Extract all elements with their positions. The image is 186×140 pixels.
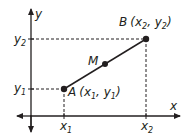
y2-label: y2 [13,32,26,48]
x1-label: x1 [59,119,72,135]
point-b [143,36,149,42]
y-axis-label: y [34,7,43,21]
y1-label: y1 [13,81,26,97]
point-m-label: M [88,54,99,68]
coordinate-diagram: y x y2 y1 x1 x2 A(x1, y1) B(x2, y2) M [0,0,186,140]
point-a-label: A(x1, y1) [67,85,121,101]
point-m [102,61,108,67]
x-axis-label: x [169,99,178,113]
point-b-label: B(x2, y2) [119,15,172,31]
point-a [61,86,67,92]
x2-label: x2 [140,119,153,135]
